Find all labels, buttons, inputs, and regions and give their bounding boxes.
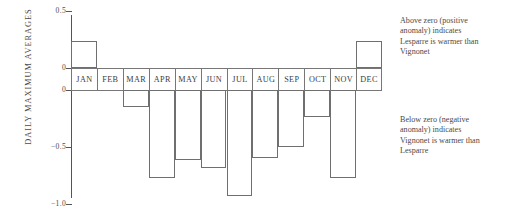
y-tick-label-wrap: 0 <box>26 85 66 95</box>
month-label-cell-aug: AUG <box>252 68 278 91</box>
y-tick-label-wrap: −1.0 <box>26 199 66 209</box>
annotation-above-line-1: Above zero (positive <box>400 16 516 26</box>
annotation-above-line-4: Vignonet <box>400 47 516 57</box>
month-label: SEP <box>284 75 299 84</box>
y-tick-label: 0 <box>32 85 66 94</box>
bar-may <box>175 90 201 160</box>
y-tick-mark <box>66 11 72 12</box>
y-tick-label: 0.5 <box>32 6 66 15</box>
month-label: MAY <box>178 75 198 84</box>
y-tick-label-wrap: 0.5 <box>26 6 66 16</box>
month-label-cell-nov: NOV <box>330 68 356 91</box>
bar-sep <box>278 90 304 147</box>
month-label-band: JANFEBMARAPRMAYJUNJULAUGSEPOCTNOVDEC <box>71 68 382 91</box>
bar-dec <box>356 41 382 68</box>
y-tick-label: −0.5 <box>32 142 66 151</box>
month-label-cell-may: MAY <box>175 68 201 91</box>
y-tick-label: −1.0 <box>32 199 66 208</box>
month-label: FEB <box>102 75 118 84</box>
annotation-below-line-3: Vignonet is warmer than <box>400 136 516 146</box>
bar-jan <box>71 41 97 68</box>
month-label: OCT <box>309 75 327 84</box>
month-label-cell-sep: SEP <box>278 68 304 91</box>
bar-jul <box>227 90 253 196</box>
month-label: JUL <box>232 75 247 84</box>
annotation-below-zero: Below zero (negative anomaly) indicates … <box>400 115 516 157</box>
bar-nov <box>330 90 356 178</box>
month-label-cell-mar: MAR <box>123 68 149 91</box>
chart-canvas: DAILY MAXIMUM AVERAGES 0.500−0.5−1.0 JAN… <box>0 0 518 215</box>
annotation-below-line-2: anomaly) indicates <box>400 125 516 135</box>
month-label-cell-apr: APR <box>149 68 175 91</box>
annotation-below-line-4: Lesparre <box>400 146 516 156</box>
month-label: JUN <box>206 75 222 84</box>
annotation-above-line-2: anomaly) indicates <box>400 26 516 36</box>
month-label: NOV <box>334 75 353 84</box>
bar-jun <box>201 90 227 168</box>
bar-apr <box>149 90 175 178</box>
annotation-below-line-1: Below zero (negative <box>400 115 516 125</box>
month-label-cell-feb: FEB <box>97 68 123 91</box>
y-tick-label: 0 <box>32 63 66 72</box>
month-label-cell-jul: JUL <box>227 68 253 91</box>
month-label: AUG <box>256 75 275 84</box>
bar-mar <box>123 90 149 107</box>
month-label: DEC <box>360 75 378 84</box>
annotation-above-line-3: Lesparre is warmer than <box>400 37 516 47</box>
month-label: JAN <box>76 75 92 84</box>
month-label-cell-jan: JAN <box>71 68 97 91</box>
month-label-cell-oct: OCT <box>304 68 330 91</box>
y-tick-label-wrap: −0.5 <box>26 142 66 152</box>
month-label: MAR <box>126 75 146 84</box>
y-tick-label-wrap: 0 <box>26 63 66 73</box>
month-label: APR <box>154 75 171 84</box>
month-label-cell-dec: DEC <box>356 68 382 91</box>
month-label-cell-jun: JUN <box>201 68 227 91</box>
bar-aug <box>252 90 278 158</box>
y-tick-mark <box>66 147 72 148</box>
y-tick-mark <box>66 204 72 205</box>
bar-oct <box>304 90 330 117</box>
annotation-above-zero: Above zero (positive anomaly) indicates … <box>400 16 516 58</box>
